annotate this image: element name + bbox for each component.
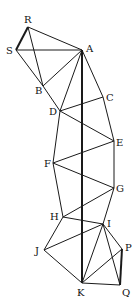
edge-A-C	[82, 50, 103, 97]
edge-R-A	[28, 27, 82, 50]
edge-F-G	[53, 163, 114, 188]
node-label-I: I	[107, 218, 111, 229]
node-label-D: D	[49, 106, 57, 117]
edge-F-E	[53, 141, 114, 163]
node-label-P: P	[125, 242, 132, 253]
edge-I-Q	[103, 224, 120, 285]
node-label-G: G	[116, 183, 124, 194]
node-label-H: H	[50, 211, 59, 222]
graph-diagram: RSABCDEFGHIJPKQ	[0, 0, 139, 301]
edge-A-D	[60, 50, 82, 111]
edge-A-B	[43, 50, 82, 86]
edge-D-F	[53, 111, 60, 163]
node-label-R: R	[24, 14, 32, 25]
edge-R-S	[16, 27, 28, 50]
node-label-F: F	[44, 158, 51, 169]
node-label-B: B	[35, 85, 42, 96]
node-label-Q: Q	[122, 287, 130, 298]
edge-F-H	[53, 163, 63, 217]
edge-C-E	[103, 97, 114, 141]
edge-D-E	[60, 111, 114, 141]
edge-R-B	[28, 27, 43, 86]
node-label-K: K	[77, 287, 85, 298]
edge-I-J	[44, 224, 103, 250]
node-label-A: A	[85, 43, 94, 54]
node-label-J: J	[34, 245, 39, 256]
label-layer: RSABCDEFGHIJPKQ	[6, 14, 132, 298]
edge-S-B	[16, 50, 43, 86]
node-label-S: S	[6, 45, 13, 56]
edge-layer	[16, 27, 122, 285]
edge-K-Q	[82, 283, 120, 285]
edge-P-Q	[120, 249, 122, 285]
node-label-E: E	[116, 137, 123, 148]
node-label-C: C	[106, 92, 114, 103]
edge-I-P	[103, 224, 122, 249]
edge-J-K	[44, 250, 82, 283]
